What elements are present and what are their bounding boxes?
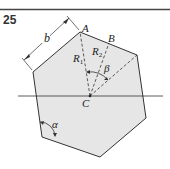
label-alpha: α [52,118,58,130]
dim-extension-left [22,58,32,70]
label-c: C [82,97,90,109]
label-b: b [44,31,50,45]
label-point-b: B [108,32,115,44]
hexagon-diagram: b A B C R1 R2 β α [0,0,170,169]
dim-arrow-left-icon [24,54,30,60]
label-beta: β [103,62,110,74]
label-a: A [81,22,89,34]
